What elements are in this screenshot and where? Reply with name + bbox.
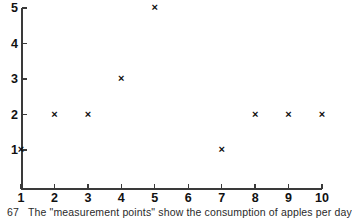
data-point: ×: [282, 109, 296, 121]
y-tick-label-3: 3: [0, 73, 18, 86]
x-tick-label-9: 9: [274, 192, 304, 205]
x-tick-3: [87, 184, 88, 189]
x-tick-4: [121, 184, 122, 189]
x-tick-label-3: 3: [73, 192, 103, 205]
y-tick-label-5: 5: [0, 2, 18, 15]
data-point: ×: [248, 109, 262, 121]
x-tick-7: [221, 184, 222, 189]
y-tick-label-2: 2: [0, 109, 18, 122]
x-tick-label-4: 4: [106, 192, 136, 205]
x-tick-6: [188, 184, 189, 189]
x-tick-10: [321, 184, 322, 189]
x-tick-label-2: 2: [39, 192, 69, 205]
caption-text: The "measurement points" show the consum…: [28, 206, 352, 219]
x-tick-5: [154, 184, 155, 189]
x-axis-line: [21, 188, 322, 190]
x-tick-9: [288, 184, 289, 189]
x-tick-label-10: 10: [307, 192, 337, 205]
data-point: ×: [47, 109, 61, 121]
x-tick-label-5: 5: [140, 192, 170, 205]
caption-number: 67: [0, 206, 28, 219]
scatter-plot: 12345 12345678910 ×××××××××: [0, 0, 333, 200]
y-tick-5: [22, 7, 27, 8]
x-tick-1: [20, 184, 21, 189]
data-point: ×: [81, 109, 95, 121]
x-tick-label-7: 7: [207, 192, 237, 205]
data-point: ×: [114, 73, 128, 85]
y-axis-line: [21, 8, 23, 189]
x-tick-2: [54, 184, 55, 189]
y-tick-3: [22, 78, 27, 79]
y-tick-label-4: 4: [0, 38, 18, 51]
x-tick-label-1: 1: [6, 192, 36, 205]
data-point: ×: [315, 109, 329, 121]
x-tick-label-6: 6: [173, 192, 203, 205]
y-tick-4: [22, 43, 27, 44]
y-tick-2: [22, 114, 27, 115]
x-tick-8: [254, 184, 255, 189]
data-point: ×: [215, 144, 229, 156]
data-point: ×: [148, 2, 162, 14]
data-point: ×: [14, 144, 28, 156]
figure-caption: 67The "measurement points" show the cons…: [0, 206, 333, 221]
x-tick-label-8: 8: [240, 192, 270, 205]
